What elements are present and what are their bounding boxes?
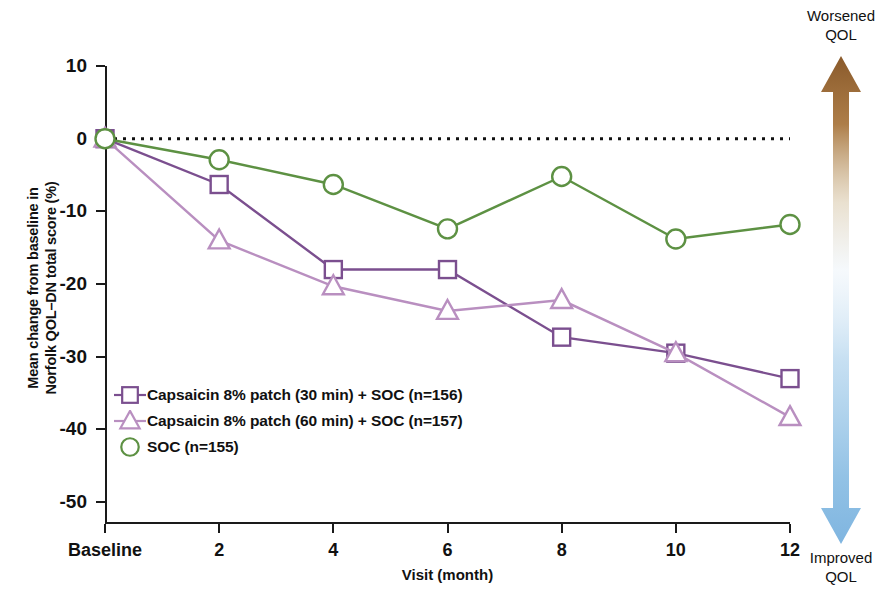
x-tick-label: 10 <box>621 540 731 561</box>
y-tick-label: -10 <box>27 201 87 220</box>
chart-legend: Capsaicin 8% patch (30 min) + SOC (n=156… <box>113 382 462 460</box>
legend-label: Capsaicin 8% patch (60 min) + SOC (n=157… <box>147 408 462 434</box>
y-tick-label: 10 <box>27 56 87 75</box>
x-tick <box>447 524 449 533</box>
series-line <box>105 139 790 379</box>
y-tick-label: -50 <box>27 492 87 511</box>
legend-label: Capsaicin 8% patch (30 min) + SOC (n=156… <box>147 382 462 408</box>
x-tick <box>218 524 220 533</box>
improved-qol-label: Improved QOL <box>795 548 887 586</box>
legend-item: Capsaicin 8% patch (30 min) + SOC (n=156… <box>113 382 462 408</box>
series-square <box>97 130 799 387</box>
circle-marker-icon <box>324 175 343 194</box>
x-axis-title: Visit (month) <box>105 566 790 583</box>
y-tick <box>96 356 105 358</box>
legend-item: Capsaicin 8% patch (60 min) + SOC (n=157… <box>113 408 462 434</box>
x-tick <box>332 524 334 533</box>
circle-marker-icon <box>96 129 115 148</box>
circle-marker-icon <box>552 167 571 186</box>
y-tick-label: -30 <box>27 347 87 366</box>
qol-direction-annotation: Worsened QOL Improved QOL <box>795 0 887 592</box>
y-tick-label: 0 <box>27 129 87 148</box>
square-marker-icon <box>122 387 138 403</box>
triangle-marker-icon <box>551 289 572 308</box>
x-tick <box>789 524 791 533</box>
x-tick-label: 2 <box>164 540 274 561</box>
y-tick <box>96 428 105 430</box>
y-tick-label: -40 <box>27 419 87 438</box>
y-tick <box>96 65 105 67</box>
x-tick <box>675 524 677 533</box>
triangle-marker-icon <box>209 229 230 248</box>
x-tick-label: Baseline <box>50 540 160 561</box>
double-arrow-icon <box>795 52 887 548</box>
improved-qol-line-1: Improved <box>810 549 873 566</box>
worsened-qol-line-1: Worsened <box>807 7 875 24</box>
y-tick <box>96 501 105 503</box>
y-tick <box>96 210 105 212</box>
legend-label: SOC (n=155) <box>147 434 239 460</box>
circle-marker-icon <box>210 150 229 169</box>
chart-figure: Mean change from baseline in Norfolk QOL… <box>0 0 887 592</box>
y-tick-label: -20 <box>27 274 87 293</box>
square-marker-icon <box>553 329 570 346</box>
worsened-qol-label: Worsened QOL <box>795 6 887 44</box>
series-circle <box>96 129 800 248</box>
x-tick-label: 4 <box>278 540 388 561</box>
circle-marker-icon <box>121 438 138 455</box>
x-tick-label: 6 <box>393 540 503 561</box>
worsened-qol-line-2: QOL <box>825 26 857 43</box>
x-tick <box>104 524 106 533</box>
legend-marker <box>113 384 147 406</box>
square-marker-icon <box>211 176 228 193</box>
legend-marker <box>113 436 147 458</box>
circle-marker-icon <box>666 230 685 249</box>
x-tick-label: 8 <box>507 540 617 561</box>
legend-item: SOC (n=155) <box>113 434 462 460</box>
triangle-marker-icon <box>120 411 139 428</box>
circle-marker-icon <box>438 219 457 238</box>
improved-qol-line-2: QOL <box>825 568 857 585</box>
y-tick <box>96 283 105 285</box>
legend-marker <box>113 410 147 432</box>
x-tick <box>561 524 563 533</box>
square-marker-icon <box>439 261 456 278</box>
